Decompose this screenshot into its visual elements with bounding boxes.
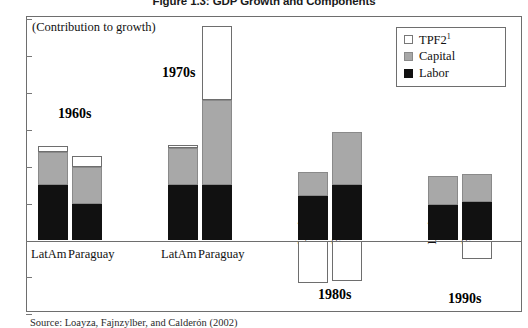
legend-label: TPF21 xyxy=(419,33,451,47)
bar-1960s-paraguay-capital-segment xyxy=(72,167,102,204)
y-tick-mark xyxy=(26,93,32,94)
legend-item-labor[interactable]: Labor xyxy=(404,65,500,82)
bar-1960s-latam-tpf2-segment xyxy=(38,146,68,152)
bar-1960s-paraguay-capital xyxy=(72,167,102,204)
x-axis-label: Paraguay xyxy=(198,248,245,261)
legend-label: Capital xyxy=(419,50,455,63)
bar-1990s-latam-labor-segment xyxy=(428,205,458,240)
bar-1970s-paraguay-tpf2-segment xyxy=(202,26,232,100)
bar-1990s-paraguay-capital-segment xyxy=(462,174,492,202)
bar-1960s-paraguay-tpf2-segment xyxy=(72,156,102,167)
bar-1980s-latam-labor xyxy=(298,196,328,240)
capital-swatch-icon xyxy=(404,52,413,61)
bar-1970s-latam-tpf2-segment xyxy=(168,145,198,149)
contribution-note: (Contribution to growth) xyxy=(32,20,156,35)
bar-1970s-paraguay-labor-segment xyxy=(202,185,232,240)
legend: TPF21CapitalLabor xyxy=(396,27,506,87)
bar-1990s-paraguay-tpf2-negative-segment xyxy=(462,241,492,259)
page-title: Figure 1.3: GDP Growth and Components xyxy=(0,0,528,7)
decade-label-1970s: 1970s xyxy=(162,66,195,80)
bar-1960s-latam-capital xyxy=(38,152,68,185)
bar-1980s-paraguay-capital-segment xyxy=(332,132,362,186)
bar-1980s-latam-tpf2-negative-segment xyxy=(298,241,328,283)
decade-label-1980s: 1980s xyxy=(318,288,351,302)
bar-1970s-latam-tpf2 xyxy=(168,145,198,149)
y-tick-mark xyxy=(26,130,32,131)
bar-1980s-latam-capital xyxy=(298,172,328,196)
bar-1990s-latam-capital-segment xyxy=(428,176,458,206)
bar-1990s-latam-capital xyxy=(428,176,458,206)
figure-root: Figure 1.3: GDP Growth and Components (C… xyxy=(0,0,528,328)
y-tick-mark xyxy=(26,314,32,315)
bar-1960s-paraguay-tpf2 xyxy=(72,156,102,167)
bar-1980s-paraguay-tpf2-negative-segment xyxy=(332,241,362,282)
x-axis-label: LatAm xyxy=(161,248,196,261)
bar-1990s-paraguay-labor xyxy=(462,202,492,241)
y-tick-mark xyxy=(26,19,32,20)
bar-1980s-paraguay-tpf2-negative xyxy=(332,241,362,282)
bar-1990s-paraguay-tpf2-negative xyxy=(462,241,492,259)
bar-1990s-paraguay-labor-segment xyxy=(462,202,492,241)
legend-item-capital[interactable]: Capital xyxy=(404,48,500,65)
decade-label-1990s: 1990s xyxy=(448,292,481,306)
zero-axis-line xyxy=(27,241,521,242)
bar-1990s-latam-labor xyxy=(428,205,458,240)
y-tick-mark xyxy=(26,277,32,278)
y-tick-mark xyxy=(26,167,32,168)
bar-1970s-latam-capital-segment xyxy=(168,148,198,185)
bar-1990s-paraguay-capital xyxy=(462,174,492,202)
bar-1960s-latam-tpf2 xyxy=(38,146,68,152)
bar-1980s-paraguay-labor-segment xyxy=(332,185,362,240)
labor-swatch-icon xyxy=(404,69,413,78)
bar-1980s-latam-tpf2-negative xyxy=(298,241,328,283)
tpf2-swatch-icon xyxy=(404,35,413,44)
bar-1980s-paraguay-labor xyxy=(332,185,362,240)
bar-1970s-latam-labor-segment xyxy=(168,185,198,240)
bar-1970s-latam-labor xyxy=(168,185,198,240)
decade-label-1960s: 1960s xyxy=(58,107,91,121)
y-tick-mark xyxy=(26,204,32,205)
bar-1960s-paraguay-labor-segment xyxy=(72,204,102,241)
bar-1970s-paraguay-capital xyxy=(202,100,232,185)
bar-1960s-latam-labor-segment xyxy=(38,185,68,240)
legend-item-tpf2[interactable]: TPF21 xyxy=(404,31,500,48)
bar-1970s-latam-capital xyxy=(168,148,198,185)
bar-1960s-latam-labor xyxy=(38,185,68,240)
x-axis-label: Paraguay xyxy=(68,248,115,261)
bar-1980s-latam-capital-segment xyxy=(298,172,328,196)
bar-1980s-paraguay-capital xyxy=(332,132,362,186)
legend-label: Labor xyxy=(419,67,449,80)
source-note: Source: Loayza, Fajnzylber, and Calderón… xyxy=(30,317,237,328)
bar-1970s-paraguay-labor xyxy=(202,185,232,240)
bar-1970s-paraguay-capital-segment xyxy=(202,100,232,185)
bar-1960s-paraguay-labor xyxy=(72,204,102,241)
bar-1980s-latam-labor-segment xyxy=(298,196,328,240)
y-tick-mark xyxy=(26,56,32,57)
bar-1970s-paraguay-tpf2 xyxy=(202,26,232,100)
bar-1960s-latam-capital-segment xyxy=(38,152,68,185)
legend-footnote-marker: 1 xyxy=(447,32,451,41)
x-axis-label: LatAm xyxy=(31,248,66,261)
